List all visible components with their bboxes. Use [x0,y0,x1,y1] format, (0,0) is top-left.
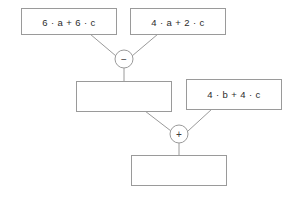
edge-right-to-minus [132,34,158,56]
node-input-right-label: 4 · a + 2 · c [151,17,205,28]
edge-intermediate-to-plus [145,111,171,131]
node-input-addend-label: 4 · b + 4 · c [207,89,261,100]
node-input-left[interactable]: 6 · a + 6 · c [22,9,117,35]
diagram-svg-surface: 6 · a + 6 · c 4 · a + 2 · c − 4 · b + 4 … [0,0,295,199]
node-intermediate-result-box[interactable] [77,82,172,112]
edge-left-to-minus [90,34,116,56]
minus-icon: − [121,54,127,65]
node-input-left-label: 6 · a + 6 · c [42,17,96,28]
operator-add[interactable]: + [170,125,188,143]
node-input-addend[interactable]: 4 · b + 4 · c [187,80,282,110]
expression-tree-diagram: 6 · a + 6 · c 4 · a + 2 · c − 4 · b + 4 … [0,0,295,199]
edge-addend-to-plus [188,109,212,131]
node-input-right[interactable]: 4 · a + 2 · c [131,9,226,35]
operator-subtract[interactable]: − [115,50,133,68]
plus-icon: + [176,129,182,140]
node-intermediate-result[interactable] [77,82,172,112]
node-final-result-box[interactable] [132,156,227,186]
node-final-result[interactable] [132,156,227,186]
